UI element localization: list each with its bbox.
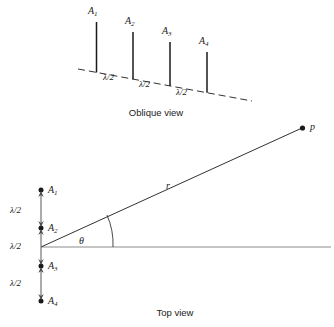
theta-arc	[107, 215, 113, 247]
field-point-label: p	[310, 122, 315, 132]
antenna-array-figure: A1 A2 A3 A4 λ/2 λ/2 λ/2 Oblique view A1 …	[0, 0, 334, 327]
oblique-element-3-label: A3	[162, 26, 172, 36]
oblique-view-caption: Oblique view	[116, 108, 196, 118]
top-view-caption: Top view	[145, 308, 205, 318]
oblique-element-1-label: A1	[88, 6, 98, 16]
oblique-element-3-label-sub: 3	[168, 30, 172, 38]
top-element-3-label-sub: 3	[54, 265, 58, 273]
top-element-2-label-sub: 2	[54, 227, 58, 235]
top-element-2-label: A2	[48, 223, 58, 233]
top-spacing-label-3: λ/2	[10, 279, 21, 288]
top-element-3-label: A3	[48, 261, 58, 271]
oblique-element-4-label: A4	[199, 36, 209, 46]
field-point-dot	[300, 125, 305, 130]
top-element-4-label-sub: 4	[54, 300, 58, 308]
oblique-element-4-label-sub: 4	[205, 40, 209, 48]
oblique-spacing-label-3: λ/2	[176, 88, 187, 97]
oblique-element-1-label-sub: 1	[94, 10, 98, 18]
range-ray	[41, 128, 302, 247]
top-spacing-label-2: λ/2	[10, 242, 21, 251]
figure-vector-layer	[0, 0, 334, 327]
angle-label: θ	[79, 236, 84, 246]
oblique-element-2-label-sub: 2	[131, 20, 135, 28]
range-label: r	[166, 181, 170, 191]
top-element-1-label-sub: 1	[54, 189, 58, 197]
top-spacing-label-1: λ/2	[10, 206, 21, 215]
oblique-spacing-label-2: λ/2	[139, 80, 150, 89]
oblique-spacing-label-1: λ/2	[103, 73, 114, 82]
oblique-element-2-label: A2	[125, 16, 135, 26]
top-element-1-label: A1	[48, 185, 58, 195]
top-element-4-label: A4	[48, 296, 58, 306]
